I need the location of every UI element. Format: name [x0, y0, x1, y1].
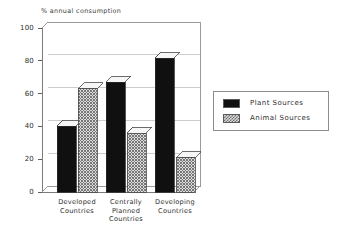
legend-label-animal-sources: Animal Sources: [250, 113, 310, 124]
category-label-developing: Developing Countries: [155, 198, 195, 215]
y-tick-0: 0: [29, 188, 34, 196]
y-tick-40: 40: [25, 122, 34, 130]
y-tick-20: 20: [25, 155, 34, 163]
y-axis-ticks: [38, 28, 42, 192]
y-tick-80: 80: [25, 57, 34, 65]
category-label-line: Developed: [58, 198, 96, 207]
category-label-developed: Developed Countries: [58, 198, 96, 215]
bar-developed-animal: [78, 83, 103, 192]
bar-centrally-planned-animal: [127, 127, 152, 192]
y-axis-tick-labels: 100 80 60 40 20 0: [10, 0, 34, 235]
legend-label-plant-sources: Plant Sources: [250, 98, 303, 109]
category-label-line: Countries: [58, 207, 96, 216]
y-tick-100: 100: [20, 24, 34, 32]
bar-chart-figure: % annual consumption 100 80 60 40 20 0 D…: [0, 0, 342, 235]
y-tick-60: 60: [25, 90, 34, 98]
legend: Plant Sources Animal Sources: [213, 91, 329, 131]
bar-group-centrally-planned: [106, 76, 152, 192]
legend-swatch-plant-sources: [223, 99, 240, 108]
category-label-centrally-planned: Centrally Planned Countries: [109, 198, 143, 224]
category-label-line: Developing: [155, 198, 195, 207]
bar-group-developed: [57, 83, 103, 192]
category-label-line: Countries: [109, 215, 143, 224]
category-label-line: Centrally: [109, 198, 143, 207]
bar-group-developing: [155, 52, 201, 192]
category-label-line: Planned: [109, 207, 143, 216]
y-axis-title: % annual consumption: [41, 7, 121, 15]
legend-swatch-animal-sources: [223, 114, 240, 123]
category-label-line: Countries: [155, 207, 195, 216]
